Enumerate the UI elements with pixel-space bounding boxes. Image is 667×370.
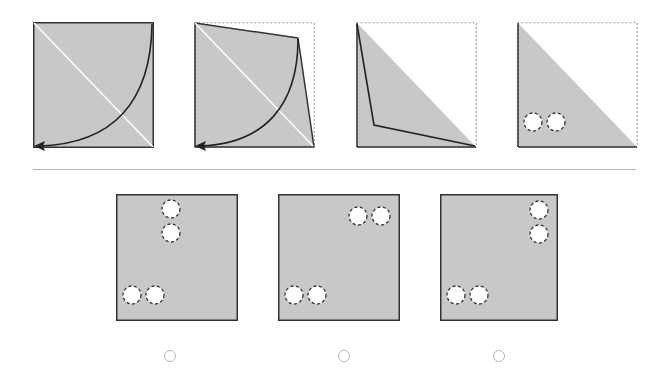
punched-hole xyxy=(349,207,367,225)
fold-step-3-drawing xyxy=(356,22,477,148)
punched-hole xyxy=(530,225,548,243)
answer-option-a xyxy=(116,194,238,321)
punched-hole xyxy=(285,286,303,304)
fold-step-3 xyxy=(356,22,477,148)
fold-step-2-drawing xyxy=(194,22,315,148)
punched-hole xyxy=(162,224,180,242)
punched-hole xyxy=(308,286,326,304)
answer-option-b xyxy=(278,194,400,321)
option-a-drawing xyxy=(116,194,238,321)
punched-hole xyxy=(447,286,465,304)
punched-hole xyxy=(530,201,548,219)
fold-step-4 xyxy=(517,22,638,148)
punched-hole xyxy=(162,200,180,218)
option-b-drawing xyxy=(278,194,400,321)
fold-step-2 xyxy=(194,22,315,148)
punched-hole xyxy=(372,207,390,225)
radio-option-b[interactable] xyxy=(338,350,350,362)
fold-step-1-drawing xyxy=(33,22,154,148)
punched-hole xyxy=(547,113,565,131)
fold-step-1 xyxy=(33,22,154,148)
radio-option-a[interactable] xyxy=(164,350,176,362)
section-divider xyxy=(33,169,636,170)
radio-option-c[interactable] xyxy=(493,350,505,362)
option-c-drawing xyxy=(440,194,558,321)
answer-option-c xyxy=(440,194,558,321)
punched-hole xyxy=(123,286,141,304)
punched-hole xyxy=(524,113,542,131)
fold-step-4-drawing xyxy=(517,22,638,148)
punched-hole xyxy=(146,286,164,304)
punched-hole xyxy=(470,286,488,304)
folded-triangle xyxy=(357,23,476,147)
